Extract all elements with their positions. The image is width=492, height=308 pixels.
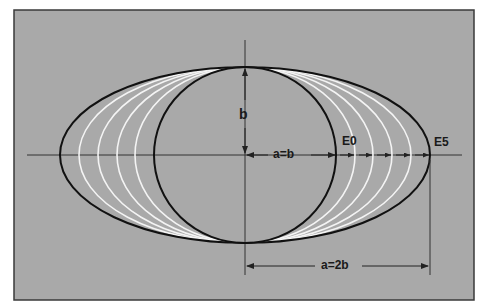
label-a-equals-b: a=b	[273, 148, 294, 160]
label-e0: E0	[342, 135, 357, 147]
ellipse-diagram	[0, 0, 492, 308]
label-a-equals-2b: a=2b	[321, 259, 349, 271]
label-b: b	[239, 107, 248, 121]
diagram-stage: b a=b E0 E5 a=2b	[0, 0, 492, 308]
label-e5: E5	[434, 136, 449, 148]
